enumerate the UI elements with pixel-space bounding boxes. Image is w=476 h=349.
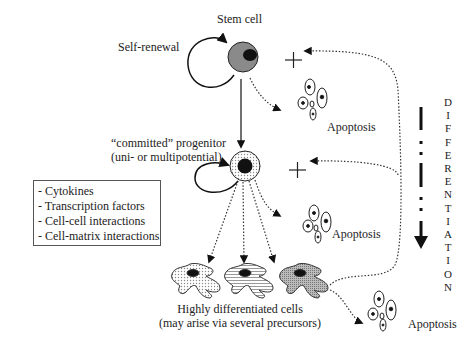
differentiated-label-line2: (may arise via several precursors)	[140, 316, 340, 330]
factor-item: - Transcription factors	[38, 199, 160, 214]
plus-icon	[285, 52, 302, 68]
factor-item: - Cell-cell interactions	[38, 214, 160, 229]
differentiation-arrow	[414, 107, 428, 249]
progenitor-cell-icon	[230, 151, 260, 181]
progenitor-label-line1: “committed” progenitor	[111, 136, 226, 150]
stem-cell-label: Stem cell	[217, 12, 262, 26]
regulatory-factors-box: - Cytokines - Transcription factors - Ce…	[33, 180, 161, 246]
stem-cell-icon	[228, 42, 258, 72]
apoptotic-cells-icon	[368, 291, 396, 331]
apoptosis-label-3: Apoptosis	[408, 317, 457, 331]
apoptosis-label-1: Apoptosis	[327, 120, 376, 134]
progenitor-label-line2: (uni- or multipotential)	[111, 150, 222, 164]
apoptosis-label-2: Apoptosis	[332, 227, 381, 241]
self-renewal-label: Self-renewal	[118, 40, 179, 54]
apoptotic-cells-icon	[298, 79, 327, 120]
differentiated-cells-icon	[172, 263, 328, 298]
plus-icon	[289, 162, 306, 178]
diagram-canvas	[0, 0, 476, 349]
apoptotic-cells-icon	[303, 205, 331, 243]
self-renewal-arrow	[188, 38, 234, 88]
differentiation-axis-label: D I F F E R E N T I A T I O N	[438, 96, 458, 294]
factor-item: - Cytokines	[38, 184, 160, 199]
factor-item: - Cell-matrix interactions	[38, 229, 160, 244]
differentiated-label-line1: Highly differentiated cells	[160, 302, 320, 316]
